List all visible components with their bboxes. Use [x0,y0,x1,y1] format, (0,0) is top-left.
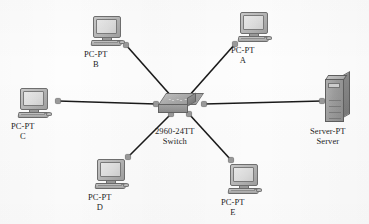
node-server-1[interactable] [325,75,351,123]
link-switch-server-connector-b[interactable] [319,98,324,103]
link-switch-pc-a[interactable] [188,44,235,97]
node-pc-b[interactable] [91,16,125,48]
device-name-label-pc-e: E [221,208,245,218]
pc-icon [238,12,272,44]
node-pc-a[interactable] [238,12,272,44]
node-label-pc-a: PC-PTA [231,46,255,65]
device-name-label-pc-c: C [11,132,35,142]
node-label-pc-c: PC-PTC [11,122,35,141]
link-switch-pc-c[interactable] [58,101,156,104]
node-pc-d[interactable] [95,159,129,191]
node-pc-c[interactable] [18,88,52,120]
node-label-pc-d: PC-PTD [88,193,112,212]
node-label-server-1: Server-PTServer [310,127,346,146]
link-switch-pc-c-connector-b[interactable] [55,98,60,103]
link-switch-pc-e[interactable] [189,114,231,160]
device-name-label-pc-d: D [88,203,112,213]
device-name-label-server-1: Server [310,137,346,147]
node-label-pc-b: PC-PTB [84,50,108,69]
node-pc-e[interactable] [228,164,262,196]
link-switch-pc-e-connector-b[interactable] [228,157,233,162]
node-label-pc-e: PC-PTE [221,198,245,217]
pc-icon [18,88,52,120]
device-name-label-pc-a: A [231,56,255,66]
pc-icon [91,16,125,48]
device-name-label-pc-b: B [84,60,108,70]
link-switch-server[interactable] [204,101,322,104]
switch-icon [158,93,204,115]
pc-icon [228,164,262,196]
node-label-switch-1: 2960-24TTSwitch [155,127,195,146]
network-diagram-canvas: PC-PTBPC-PTAPC-PTCPC-PTDPC-PTE2960-24TTS… [0,0,369,224]
pc-icon [95,159,129,191]
server-icon [325,75,351,123]
device-name-label-switch-1: Switch [155,137,195,147]
link-switch-pc-b[interactable] [126,45,172,97]
node-switch-1[interactable] [158,93,204,115]
